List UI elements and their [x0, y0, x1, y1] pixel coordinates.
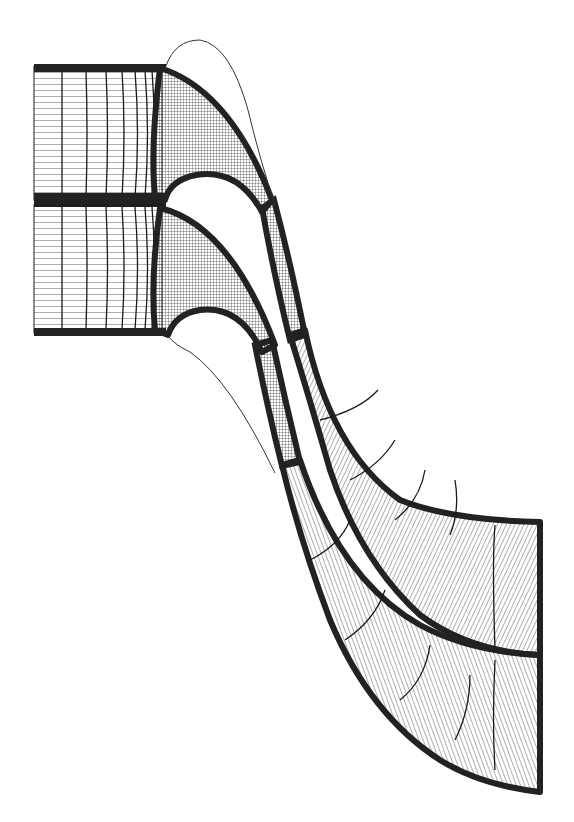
inlet-block-upper [34, 64, 166, 200]
mesh-diagram: two-passage turbine blade cascade grid [0, 0, 574, 822]
throat-block-upper [262, 200, 305, 340]
inlet-block-lower [34, 205, 166, 336]
mesh-canvas [0, 0, 574, 822]
leading-edge-block-upper [153, 68, 272, 212]
leading-edge-block-lower [153, 208, 275, 352]
